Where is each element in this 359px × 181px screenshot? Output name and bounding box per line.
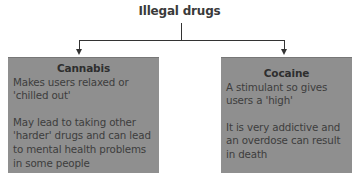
- box-text: Makes users relaxed or 'chilled out': [13, 76, 154, 103]
- arrow-down-icon: [76, 49, 82, 55]
- stem-line: [181, 23, 182, 40]
- cocaine-box: Cocaine A stimulant so gives users a 'hi…: [221, 57, 352, 173]
- arrow-down-icon: [281, 49, 287, 55]
- box-heading: Cocaine: [226, 67, 347, 81]
- diagram-title: Illegal drugs: [0, 4, 359, 18]
- cannabis-box: Cannabis Makes users relaxed or 'chilled…: [8, 57, 159, 173]
- box-text: May lead to taking other 'harder' drugs …: [13, 116, 154, 170]
- box-text: It is very addictive and an overdose can…: [226, 121, 347, 162]
- branch-line: [79, 40, 285, 41]
- box-heading: Cannabis: [13, 62, 154, 76]
- box-text: A stimulant so gives users a 'high': [226, 81, 347, 108]
